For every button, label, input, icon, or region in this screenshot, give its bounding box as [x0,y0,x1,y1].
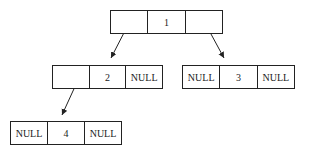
tree-node-4: NULL 4 NULL [10,121,122,145]
tree-node-2: 2 NULL [52,65,163,89]
tree-node-1: 1 [110,10,223,34]
data-cell: 1 [148,11,185,33]
data-cell: 3 [220,66,257,88]
left-pointer-cell: NULL [11,122,48,144]
tree-diagram: 1 2 NULL NULL 3 NULL NULL 4 NULL [0,0,317,159]
right-pointer-cell: NULL [126,66,162,88]
data-cell: 4 [48,122,85,144]
right-pointer-cell [186,11,222,33]
data-cell: 2 [90,66,127,88]
right-pointer-cell: NULL [85,122,121,144]
tree-node-3: NULL 3 NULL [182,65,295,89]
left-pointer-cell [111,11,148,33]
right-pointer-cell: NULL [258,66,294,88]
left-pointer-cell [53,66,90,88]
left-pointer-cell: NULL [183,66,220,88]
